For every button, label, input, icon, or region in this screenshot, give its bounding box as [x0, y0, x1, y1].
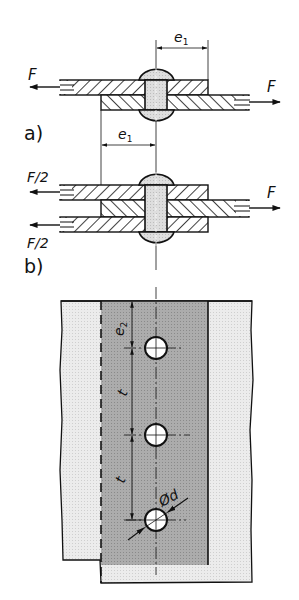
- label-force-right-b: F: [267, 184, 276, 202]
- riveted-joint-diagram: e1 F F a) e1: [0, 0, 299, 600]
- middle-plate-b: [101, 200, 249, 217]
- section-label-a: a): [24, 122, 43, 144]
- rivet-head-top-a: [139, 69, 174, 80]
- rivet-head-bottom-a: [139, 110, 174, 121]
- label-force-left-bottom-b: F/2: [27, 235, 49, 251]
- rivet-head-bottom-b: [139, 232, 174, 243]
- label-force-right-a: F: [267, 78, 276, 96]
- bottom-cover-plate-b: [60, 217, 208, 232]
- rivet-head-top-b: [139, 174, 174, 185]
- upper-plate-a: [60, 80, 208, 95]
- label-e1-top: e1: [174, 29, 188, 47]
- label-force-left-top-b: F/2: [27, 169, 49, 185]
- label-force-left-a: F: [28, 66, 37, 84]
- label-e1-lower: e1: [118, 126, 132, 144]
- view-b-butt-joint: F/2 F/2 F b): [24, 169, 280, 277]
- plan-view: e2 t t Ød: [60, 287, 253, 583]
- lower-plate-a: [101, 95, 249, 110]
- section-label-b: b): [24, 255, 43, 277]
- top-cover-plate-b: [60, 185, 208, 200]
